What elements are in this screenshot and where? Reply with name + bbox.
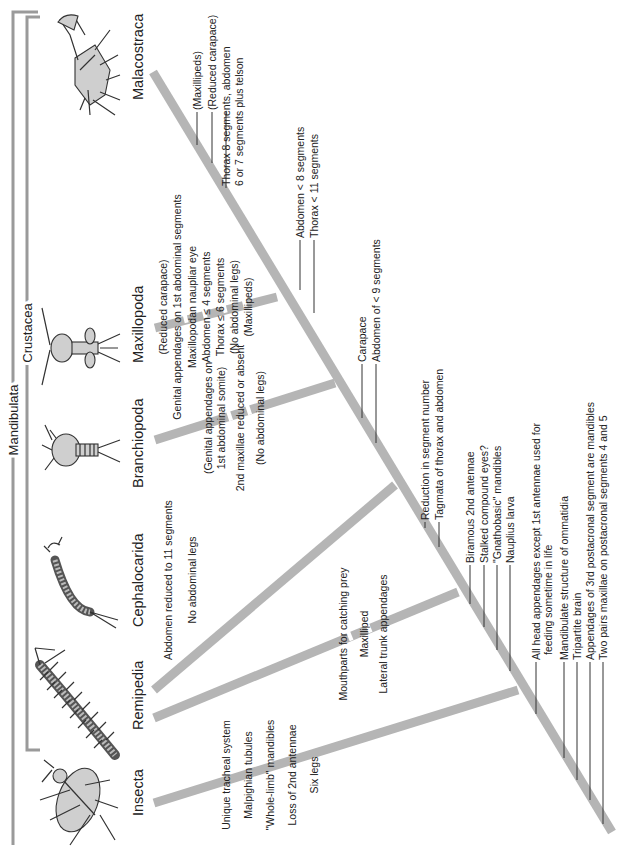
- taxon-label-branchiopoda: Branchiopoda: [130, 398, 146, 488]
- char-maxillopoda-2: Genital appendages on 1st abdominal segm…: [171, 194, 183, 419]
- char-insecta-1: Unique tracheal system: [220, 720, 232, 830]
- char-branchiopoda-3: 2nd maxillae reduced or absent: [234, 345, 246, 492]
- copepod-icon: [42, 308, 120, 385]
- char-maxillopoda-6: (No abdominal legs): [228, 260, 240, 354]
- char-malacostraca-1: (Maxillipeds): [191, 51, 203, 110]
- char-cephalocarida-1: Abdomen reduced to 11 segments: [162, 500, 174, 660]
- crab-icon: [58, 15, 120, 115]
- char-node-crustacea-1: Biramous 2nd antennae: [464, 451, 476, 563]
- beetle-icon: [40, 760, 118, 845]
- taxon-label-remipedia: Remipedia: [130, 660, 146, 730]
- char-node-mandibulata-2: feeding sometime in life: [542, 545, 554, 655]
- char-maxillopoda-3: Maxillopodan naupliar eye: [186, 246, 198, 368]
- char-node-mandibulata-3: Mandibulate structure of ommatidia: [558, 496, 570, 660]
- char-remipedia-2: Maxilliped: [358, 610, 370, 657]
- char-branchiopoda-4: (No abdominal legs): [254, 371, 266, 465]
- char-node-mandibulata-1: All head appendages except 1st antennae …: [530, 422, 542, 660]
- char-node-mandibulata-4: Tripartite brain: [571, 593, 583, 660]
- char-node-mandibulata-5: Appendages of 3rd postacronal segment ar…: [584, 402, 596, 660]
- char-maxillopoda-1: (Reduced carapace): [157, 259, 169, 354]
- char-node-crustacea-4: Nauplius larva: [504, 496, 516, 563]
- char-node-mandibulata-6: Two pairs maxillae on postacronal segmen…: [597, 415, 609, 660]
- char-remipedia-1: Mouthparts for catching prey: [337, 567, 349, 701]
- char-maxillopoda-5: Thorax ≤ 6 segments: [214, 258, 226, 357]
- char-branchiopoda-1: (Genital appendages on: [202, 362, 214, 474]
- char-node-mm-2: Thorax < 11 segments: [308, 134, 320, 238]
- char-node-branchio-2: Abdomen of < 9 segments: [370, 239, 382, 362]
- char-branchiopoda-2: 1st abdominal somite): [215, 367, 227, 470]
- char-remipedia-3: Lateral trunk appendages: [377, 574, 389, 693]
- char-node-crustacea-2: Stalked compound eyes?: [478, 445, 490, 563]
- char-maxillopoda-4: Abdomen ≤ 4 segments: [200, 252, 212, 363]
- char-malacostraca-4: 6 or 7 segments plus telson: [233, 57, 245, 186]
- taxon-label-cephalocarida: Cephalocarida: [130, 533, 146, 627]
- char-node-branchio-1: Carapace: [356, 316, 368, 362]
- cladogram-figure: Mandibulata Crustacea Insecta Remipedia …: [0, 0, 622, 851]
- taxon-label-maxillopoda: Maxillopoda: [130, 285, 146, 363]
- char-cephalocarida-2: No abdominal legs: [186, 537, 198, 624]
- taxon-label-insecta: Insecta: [130, 768, 146, 816]
- char-node-mm-1: Abdomen < 8 segments: [294, 127, 306, 238]
- taxon-label-malacostraca: Malacostraca: [130, 13, 146, 100]
- char-insecta-2: Malpighian tubules: [242, 731, 254, 819]
- char-node-crustacea-3: "Gnathobasic" mandibles: [491, 446, 503, 563]
- mandibulata-label: Mandibulata: [6, 384, 21, 456]
- crustacea-label: Crustacea: [20, 303, 35, 363]
- char-malacostraca-2: (Reduced carapace): [206, 15, 218, 110]
- remipede-icon: [35, 648, 115, 755]
- char-malacostraca-3: Thorax 8 segments, abdomen: [220, 46, 232, 186]
- char-node-cephalo-1: Reduction in segment number: [419, 379, 431, 520]
- branch-insecta: [154, 690, 518, 803]
- char-insecta-4: Loss of 2nd antennae: [286, 724, 298, 825]
- char-insecta-5: Six legs: [308, 757, 320, 794]
- char-maxillopoda-7: (Maxillipeds): [242, 278, 254, 337]
- cephalocarid-icon: [44, 537, 118, 628]
- char-node-cephalo-2: Tagmata of thorax and abdomen: [433, 369, 445, 520]
- char-insecta-3: "Whole-limb" mandibles: [264, 720, 276, 831]
- crustacea-bracket: [27, 17, 40, 750]
- branchiopod-icon: [42, 425, 120, 470]
